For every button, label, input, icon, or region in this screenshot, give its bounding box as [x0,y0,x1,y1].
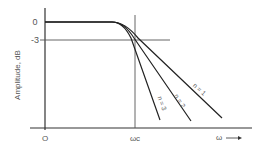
y-axis-label: Amplitude, dB [13,50,22,100]
x-origin-label: O [42,134,48,143]
curve-n2 [45,22,191,121]
y-tick-0: 0 [32,17,37,27]
y-tick-minus-3: -3 [31,35,39,45]
curve-label-n2: n = 2 [173,93,187,109]
curve-n3 [45,22,160,120]
x-marker-label: ωc [130,134,140,143]
x-axis-label: ω [216,133,222,142]
curve-label-n1: n = 1 [192,82,208,97]
arrowhead-icon [238,136,242,140]
curve-label-n3: n = 3 [157,95,169,112]
amplitude-response-diagram: 0 -3 Amplitude, dB O ωc ω n = 1 n = 2 n … [0,0,269,150]
